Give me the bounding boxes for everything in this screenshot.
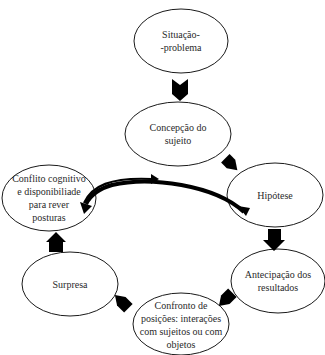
curved-arrow-hipotese-to-conflito — [86, 182, 244, 212]
node-concepcao-line-1: Concepção do — [150, 121, 207, 134]
node-surpresa: Surpresa — [24, 269, 116, 299]
node-situacao-line-1: Situação- — [160, 28, 201, 41]
node-confronto-line-2: posições: interações — [140, 312, 223, 325]
node-confronto-line-4: objetos — [140, 338, 223, 351]
node-antecipacao-line-1: Antecipação dos — [245, 268, 311, 281]
node-situacao-line-2: -problema — [160, 41, 201, 54]
block-arrow-down-icon — [172, 79, 188, 101]
node-hipotese-line-1: Hipótese — [257, 189, 293, 202]
node-conflito-line-1: Conflito cognitivo — [12, 172, 86, 185]
node-conflito-line-2: e disponibiliade — [12, 185, 86, 198]
node-concepcao: Concepção do sujeito — [128, 111, 228, 157]
block-arrow-down-right-icon — [221, 154, 242, 175]
node-conflito: Conflito cognitivo e disponibiliade para… — [4, 168, 94, 228]
node-situacao: Situação- -problema — [136, 18, 226, 64]
node-antecipacao: Antecipação dos resultados — [232, 258, 324, 304]
node-conflito-line-3: para rever — [12, 198, 86, 211]
node-confronto: Confronto de posições: interações com su… — [134, 296, 228, 354]
block-arrow-up-icon — [46, 232, 66, 252]
node-confronto-line-3: com sujeitos ou com — [140, 325, 223, 338]
node-hipotese: Hipótese — [230, 180, 320, 210]
node-concepcao-line-2: sujeito — [150, 134, 207, 147]
block-arrow-down-icon — [263, 229, 285, 251]
node-antecipacao-line-2: resultados — [245, 281, 311, 294]
node-surpresa-line-1: Surpresa — [53, 278, 88, 291]
node-conflito-line-4: posturas — [12, 211, 86, 224]
node-confronto-line-1: Confronto de — [140, 299, 223, 312]
